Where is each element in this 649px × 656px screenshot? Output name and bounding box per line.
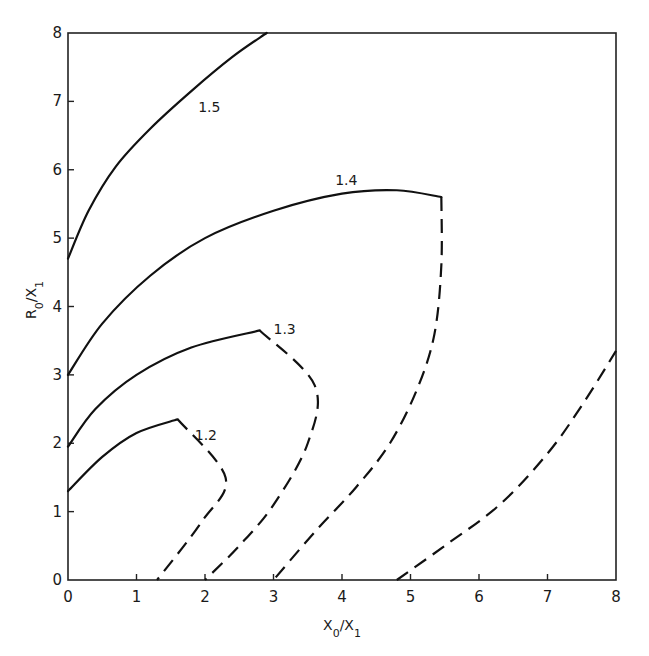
curve-1-2-solid [68, 419, 178, 491]
y-tick-label: 3 [52, 366, 62, 384]
x-tick-label: 2 [200, 588, 210, 606]
y-axis-ticks: 012345678 [52, 24, 74, 589]
y-tick-label: 5 [52, 229, 62, 247]
contour-chart: 012345678 012345678 1.51.41.31.2 X0/X1 R… [0, 0, 649, 656]
curve-1-4-solid [68, 190, 441, 375]
y-tick-label: 2 [52, 434, 62, 452]
curve-1-3-solid [68, 330, 260, 446]
y-tick-label: 6 [52, 161, 62, 179]
curve-1-3-dashed [205, 330, 318, 580]
x-tick-label: 1 [132, 588, 142, 606]
contour-curves [68, 33, 616, 580]
y-axis-label: R0/X1 [23, 281, 46, 319]
x-tick-label: 6 [474, 588, 484, 606]
curve-1-4-dashed [274, 197, 442, 580]
x-tick-label: 8 [611, 588, 621, 606]
y-tick-label: 8 [52, 24, 62, 42]
x-axis-ticks: 012345678 [63, 574, 621, 606]
curve-label-1-4: 1.4 [335, 172, 357, 188]
y-tick-label: 7 [52, 92, 62, 110]
x-tick-label: 4 [337, 588, 347, 606]
curve-label-1-5: 1.5 [198, 99, 220, 115]
contour-labels: 1.51.41.31.2 [195, 99, 358, 443]
curve-label-1-3: 1.3 [274, 321, 296, 337]
plot-frame [68, 33, 616, 580]
x-axis-label: X0/X1 [323, 617, 361, 640]
x-tick-label: 5 [406, 588, 416, 606]
curve-label-1-2: 1.2 [195, 427, 217, 443]
x-tick-label: 7 [543, 588, 553, 606]
y-tick-label: 1 [52, 503, 62, 521]
y-tick-label: 0 [52, 571, 62, 589]
curve-boundary-dashed [397, 351, 616, 580]
curve-1-2-dashed [157, 419, 226, 580]
x-tick-label: 3 [269, 588, 279, 606]
x-tick-label: 0 [63, 588, 73, 606]
y-tick-label: 4 [52, 298, 62, 316]
